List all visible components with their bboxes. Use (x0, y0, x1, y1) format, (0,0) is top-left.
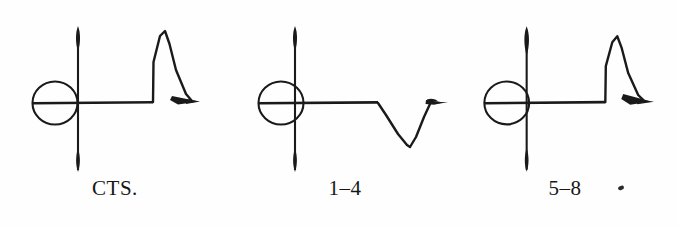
spike-trace (153, 31, 192, 102)
spike-tail-wedge-icon (170, 96, 199, 105)
figure-panel-leads-1-4: 1–4 (226, 0, 452, 227)
spike-trace (605, 36, 644, 102)
baseline-trace (33, 102, 153, 103)
baseline-trace (259, 102, 378, 103)
figure-caption-leads-1-4: 1–4 (226, 178, 458, 199)
waveform-diagram-leads-1-4 (226, 0, 452, 185)
figure-caption-cts: CTS. (0, 178, 228, 199)
baseline-trace (485, 102, 605, 103)
figure-panel-leads-5-8: 5–8 (452, 0, 678, 227)
dip-trace (378, 103, 430, 147)
spike-tail-tip-icon (637, 99, 654, 104)
figure-caption-leads-5-8: 5–8 (452, 178, 678, 199)
figure-plate: CTS. 1–4 5–8 (0, 0, 679, 227)
figure-panel-cts: CTS. (0, 0, 226, 227)
spike-tail-wedge-icon (621, 94, 651, 105)
dip-tail-tip-icon (434, 102, 448, 105)
waveform-diagram-leads-5-8 (452, 0, 678, 185)
waveform-diagram-cts (0, 0, 226, 185)
spike-tail-tip-icon (186, 99, 200, 104)
